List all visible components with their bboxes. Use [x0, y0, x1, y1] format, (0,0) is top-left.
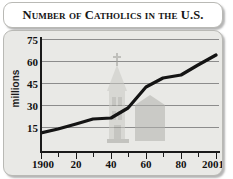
- y-axis-ticks: 75 60 45 30 15: [4, 31, 38, 175]
- x-tick-mark-minor: [128, 153, 129, 157]
- x-axis-line: [41, 151, 220, 153]
- y-tick-label: 75: [8, 35, 38, 46]
- x-tick-label: 1900: [23, 159, 63, 170]
- x-tick-mark-minor: [58, 153, 59, 157]
- x-tick-label: 20: [61, 159, 91, 170]
- x-tick-label: 60: [131, 159, 161, 170]
- x-tick-label: 2001: [193, 159, 223, 170]
- y-tick-label: 30: [8, 101, 38, 112]
- y-tick-label: 15: [8, 123, 38, 134]
- chart-panel: millions 75 60 45 30 15: [3, 30, 223, 176]
- x-tick-mark-minor: [163, 153, 164, 157]
- plot-area: [41, 39, 219, 151]
- y-tick-label: 60: [8, 57, 38, 68]
- page-title: Number of Catholics in the U.S.: [23, 9, 204, 22]
- x-tick-label: 40: [96, 159, 126, 170]
- data-line-series: [41, 39, 219, 151]
- x-tick-mark-minor: [93, 153, 94, 157]
- chart-title-plate: Number of Catholics in the U.S.: [3, 2, 223, 28]
- y-tick-label: 45: [8, 79, 38, 90]
- y-axis-line: [40, 37, 42, 153]
- x-tick-label: 80: [166, 159, 196, 170]
- x-tick-mark-minor: [198, 153, 199, 157]
